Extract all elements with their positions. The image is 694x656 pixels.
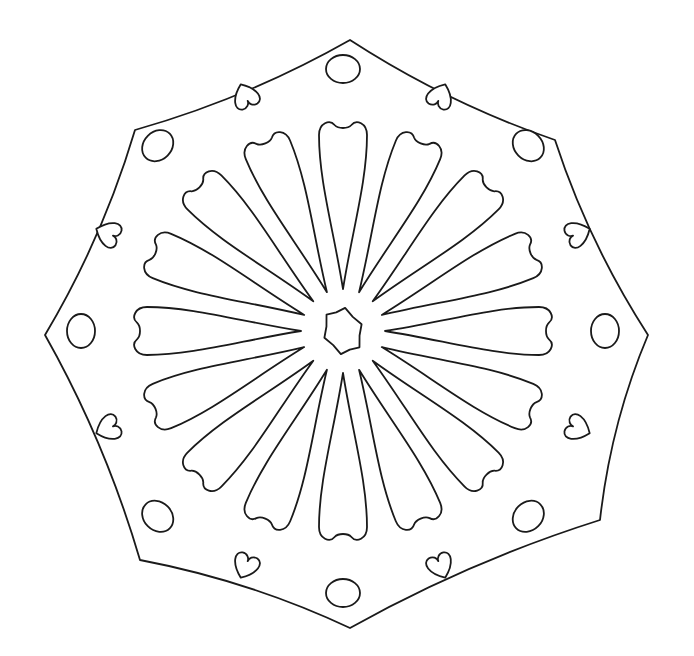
oval-ornament bbox=[591, 314, 619, 348]
oval-ornament bbox=[326, 55, 360, 83]
oval-ornament bbox=[326, 579, 360, 607]
mandala-drawing bbox=[0, 0, 694, 656]
oval-ornament bbox=[67, 314, 95, 348]
